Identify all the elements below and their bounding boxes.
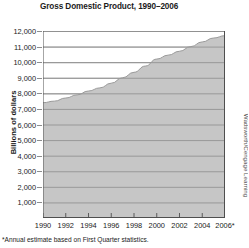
x-axis-tick-label: 2006*	[208, 221, 242, 230]
y-axis-tick-mark	[37, 109, 42, 110]
area-chart-svg	[43, 31, 225, 218]
y-axis-tick-label: 9,000	[4, 74, 36, 83]
y-axis-tick-mark	[37, 78, 42, 79]
y-axis-tick-label: 2,000	[4, 183, 36, 192]
y-axis-tick-mark	[37, 31, 42, 32]
y-axis-tick-mark	[37, 62, 42, 63]
y-axis-tick-label: 10,000	[4, 58, 36, 67]
publisher-credit: Wadsworth/Cengage Learning	[243, 96, 249, 216]
chart-figure: Gross Domestic Product, 1990–2006 Billio…	[0, 0, 248, 248]
y-axis-tick-label: 11,000	[4, 43, 36, 52]
y-axis-tick-mark	[37, 47, 42, 48]
chart-footnote: *Annual estimate based on First Quarter …	[2, 236, 149, 243]
y-axis-tick-mark	[37, 202, 42, 203]
y-axis-tick-label: 5,000	[4, 136, 36, 145]
y-axis-tick-label: 4,000	[4, 152, 36, 161]
y-axis-tick-mark	[37, 125, 42, 126]
y-axis-tick-mark	[37, 171, 42, 172]
y-axis-tick-label: 12,000	[4, 27, 36, 36]
y-axis-tick-mark	[37, 140, 42, 141]
y-axis-tick-mark	[37, 156, 42, 157]
chart-title: Gross Domestic Product, 1990–2006	[40, 2, 230, 11]
y-axis-tick-mark	[37, 93, 42, 94]
y-axis-tick-label: 1,000	[4, 198, 36, 207]
y-axis-tick-label: 8,000	[4, 89, 36, 98]
y-axis-tick-mark	[37, 187, 42, 188]
plot-area	[43, 31, 225, 218]
y-axis-tick-label: 7,000	[4, 105, 36, 114]
y-axis-tick-label: 3,000	[4, 167, 36, 176]
y-axis-tick-label: 6,000	[4, 121, 36, 130]
